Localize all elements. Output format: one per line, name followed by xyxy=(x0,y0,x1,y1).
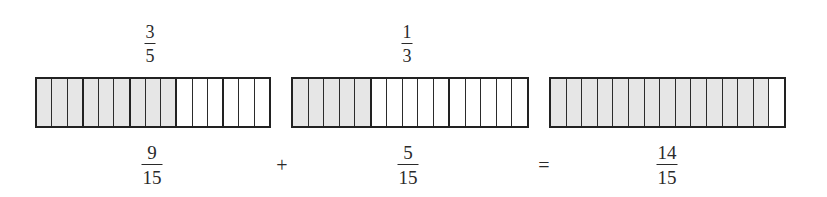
shaded-cell xyxy=(582,79,598,126)
label-three-fifths: 3 5 xyxy=(145,23,156,65)
unshaded-cell xyxy=(418,79,434,126)
shaded-cell xyxy=(68,79,84,126)
fraction-bar-nine-fifteenths xyxy=(35,77,271,128)
shaded-cell xyxy=(660,79,676,126)
shaded-cell xyxy=(324,79,340,126)
shaded-cell xyxy=(645,79,661,126)
plus-sign: + xyxy=(276,155,287,175)
unshaded-cell xyxy=(372,79,388,126)
fraction-bar xyxy=(657,164,678,165)
numerator: 5 xyxy=(402,143,414,162)
denominator: 15 xyxy=(398,168,419,187)
unshaded-cell xyxy=(193,79,208,126)
fraction-bar xyxy=(145,43,156,44)
unshaded-cell xyxy=(224,79,239,126)
fraction-bar xyxy=(398,164,419,165)
numerator: 3 xyxy=(145,23,156,41)
denominator: 15 xyxy=(657,168,678,187)
unshaded-cell xyxy=(208,79,224,126)
shaded-cell xyxy=(738,79,754,126)
fraction-bar-five-fifteenths xyxy=(291,77,529,128)
shaded-cell xyxy=(84,79,99,126)
fraction-bar xyxy=(142,164,163,165)
shaded-cell xyxy=(355,79,372,126)
equals-sign: = xyxy=(538,155,549,175)
numerator: 14 xyxy=(657,143,678,162)
shaded-cell xyxy=(114,79,130,126)
shaded-cell xyxy=(567,79,583,126)
shaded-cell xyxy=(629,79,645,126)
unshaded-cell xyxy=(512,79,527,126)
term-nine-fifteenths: 9 15 xyxy=(142,143,163,187)
denominator: 5 xyxy=(145,47,156,65)
unshaded-cell xyxy=(450,79,466,126)
unshaded-cell xyxy=(466,79,482,126)
denominator: 15 xyxy=(142,168,163,187)
unshaded-cell xyxy=(239,79,254,126)
term-five-fifteenths: 5 15 xyxy=(398,143,419,187)
unshaded-cell xyxy=(255,79,269,126)
shaded-cell xyxy=(723,79,739,126)
shaded-cell xyxy=(754,79,770,126)
unshaded-cell xyxy=(497,79,513,126)
unshaded-cell xyxy=(403,79,419,126)
shaded-cell xyxy=(146,79,161,126)
shaded-cell xyxy=(99,79,114,126)
shaded-cell xyxy=(551,79,567,126)
fraction-bar xyxy=(402,43,413,44)
unshaded-cell xyxy=(177,79,192,126)
shaded-cell xyxy=(293,79,309,126)
numerator: 1 xyxy=(402,23,413,41)
shaded-cell xyxy=(340,79,356,126)
shaded-cell xyxy=(161,79,177,126)
label-one-third: 1 3 xyxy=(402,23,413,65)
unshaded-cell xyxy=(769,79,784,126)
denominator: 3 xyxy=(402,47,413,65)
shaded-cell xyxy=(691,79,707,126)
fraction-bar-fourteen-fifteenths xyxy=(549,77,786,128)
shaded-cell xyxy=(37,79,52,126)
unshaded-cell xyxy=(434,79,451,126)
numerator: 9 xyxy=(146,143,158,162)
result-fourteen-fifteenths: 14 15 xyxy=(657,143,678,187)
shaded-cell xyxy=(707,79,723,126)
shaded-cell xyxy=(613,79,629,126)
unshaded-cell xyxy=(481,79,497,126)
shaded-cell xyxy=(309,79,325,126)
shaded-cell xyxy=(131,79,146,126)
shaded-cell xyxy=(52,79,67,126)
shaded-cell xyxy=(676,79,692,126)
unshaded-cell xyxy=(387,79,403,126)
shaded-cell xyxy=(598,79,614,126)
